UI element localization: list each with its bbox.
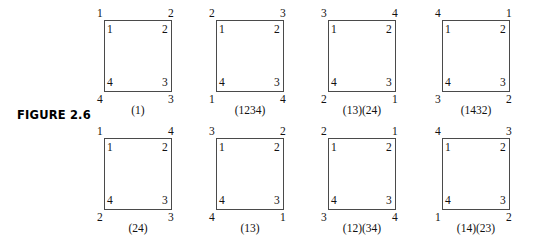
outer-vertex-label-top-right: 3 [280,8,286,20]
inner-vertex-label-bottom-left: 4 [219,195,225,207]
outer-vertex-label-bottom-left: 2 [321,94,327,106]
outer-vertex-label-top-right: 3 [506,126,512,138]
outer-vertex-label-top-right: 4 [168,126,174,138]
inner-vertex-label-bottom-left: 4 [331,77,337,89]
permutation-label: (13)(24) [324,105,400,117]
outer-vertex-label-bottom-right: 3 [168,212,174,224]
inner-vertex-label-top-left: 1 [107,24,113,36]
square-13: 13224431(13) [212,126,324,241]
inner-vertex-label-bottom-right: 3 [500,77,506,89]
outer-vertex-label-bottom-left: 1 [209,94,215,106]
inner-vertex-label-top-right: 2 [386,142,392,154]
permutation-label: (12)(34) [324,223,400,235]
outer-vertex-label-bottom-left: 3 [321,212,327,224]
inner-vertex-label-top-left: 1 [445,24,451,36]
square-1432: 14214332(1432) [438,8,550,129]
square-1234: 12234134(1234) [212,8,324,129]
inner-vertex-label-top-left: 1 [331,24,337,36]
outer-vertex-label-top-right: 1 [392,126,398,138]
inner-vertex-label-bottom-left: 4 [107,195,113,207]
permutation-label: (24) [100,223,176,235]
outer-vertex-label-bottom-right: 4 [392,212,398,224]
inner-vertex-label-top-left: 1 [219,24,225,36]
inner-vertex-label-bottom-left: 4 [331,195,337,207]
outer-vertex-label-top-right: 1 [506,8,512,20]
outer-vertex-label-bottom-left: 3 [435,94,441,106]
inner-vertex-label-bottom-right: 3 [500,195,506,207]
outer-vertex-label-bottom-left: 4 [209,212,215,224]
inner-vertex-label-top-right: 2 [162,24,168,36]
inner-vertex-label-bottom-left: 4 [219,77,225,89]
inner-vertex-label-top-right: 2 [162,142,168,154]
square-identity: 11224433(1) [100,8,212,129]
square-13-24: 13244231(13)(24) [324,8,436,129]
inner-vertex-label-top-left: 1 [219,142,225,154]
inner-vertex-label-bottom-left: 4 [445,195,451,207]
inner-vertex-label-bottom-right: 3 [274,195,280,207]
permutation-label: (13) [212,223,288,235]
inner-vertex-label-top-left: 1 [331,142,337,154]
square-24: 11244233(24) [100,126,212,241]
inner-vertex-label-bottom-right: 3 [162,195,168,207]
outer-vertex-label-bottom-right: 4 [280,94,286,106]
inner-vertex-label-top-right: 2 [500,24,506,36]
inner-vertex-label-top-right: 2 [386,24,392,36]
inner-vertex-label-bottom-left: 4 [445,77,451,89]
inner-vertex-label-top-left: 1 [445,142,451,154]
inner-vertex-label-top-right: 2 [500,142,506,154]
outer-vertex-label-top-left: 4 [435,126,441,138]
outer-vertex-label-bottom-right: 2 [506,94,512,106]
outer-vertex-label-top-right: 2 [168,8,174,20]
outer-vertex-label-top-right: 4 [392,8,398,20]
outer-vertex-label-top-left: 2 [321,126,327,138]
inner-vertex-label-bottom-right: 3 [274,77,280,89]
inner-vertex-label-bottom-right: 3 [386,195,392,207]
permutation-label: (1234) [212,105,288,117]
permutation-label: (14)(23) [438,223,514,235]
inner-vertex-label-bottom-left: 4 [107,77,113,89]
outer-vertex-label-bottom-right: 2 [506,212,512,224]
inner-vertex-label-top-right: 2 [274,142,280,154]
square-12-34: 12214334(12)(34) [324,126,436,241]
outer-vertex-label-top-right: 2 [280,126,286,138]
inner-vertex-label-bottom-right: 3 [162,77,168,89]
permutation-label: (1) [100,105,176,117]
inner-vertex-label-top-right: 2 [274,24,280,36]
outer-vertex-label-bottom-left: 2 [97,212,103,224]
outer-vertex-label-top-left: 3 [321,8,327,20]
outer-vertex-label-bottom-right: 3 [168,94,174,106]
figure-caption: FIGURE 2.6 [17,107,91,122]
outer-vertex-label-top-left: 2 [209,8,215,20]
outer-vertex-label-bottom-left: 4 [97,94,103,106]
outer-vertex-label-top-left: 1 [97,8,103,20]
outer-vertex-label-top-left: 3 [209,126,215,138]
square-14-23: 14234132(14)(23) [438,126,550,241]
outer-vertex-label-bottom-right: 1 [392,94,398,106]
outer-vertex-label-bottom-left: 1 [435,212,441,224]
inner-vertex-label-bottom-right: 3 [386,77,392,89]
outer-vertex-label-top-left: 1 [97,126,103,138]
outer-vertex-label-bottom-right: 1 [280,212,286,224]
permutation-label: (1432) [438,105,514,117]
figure-2-6: FIGURE 2.6 11224433(1)12234134(1234)1324… [0,0,559,241]
inner-vertex-label-top-left: 1 [107,142,113,154]
outer-vertex-label-top-left: 4 [435,8,441,20]
